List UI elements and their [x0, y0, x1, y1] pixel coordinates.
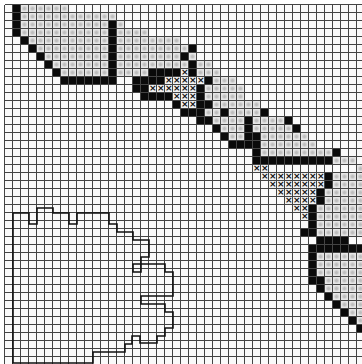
outline-shape — [5, 5, 362, 364]
outline-path — [13, 208, 173, 363]
